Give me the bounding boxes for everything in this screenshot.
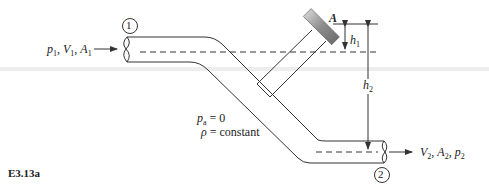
station-1-label: 1 xyxy=(126,20,132,31)
outlet-variables-label: V2, A2, p2 xyxy=(420,146,465,161)
point-A-label: A xyxy=(329,12,337,24)
outlet-pipe-end xyxy=(382,141,387,163)
h2-label: h2 xyxy=(362,79,374,94)
scan-band xyxy=(0,67,489,71)
inlet-pipe-end xyxy=(124,37,130,62)
station-2-label: 2 xyxy=(378,169,384,180)
figure-label: E3.13a xyxy=(8,167,40,179)
density-condition: ρ = constant xyxy=(201,126,260,138)
inlet-variables-label: p1, V1, A1 xyxy=(47,43,92,58)
inclined-tube-left-wall xyxy=(257,30,312,84)
h1-label: h1 xyxy=(350,34,360,49)
pipe-flow-diagram xyxy=(0,0,489,193)
